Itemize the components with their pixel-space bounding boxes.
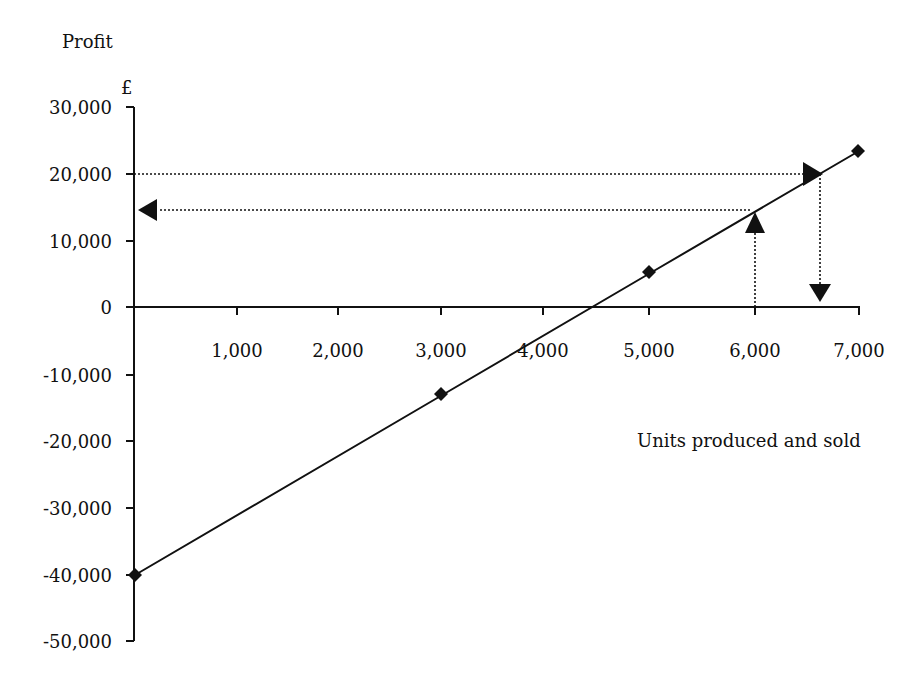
y-tick-label: -50,000 xyxy=(43,631,112,652)
x-tick-label: 2,000 xyxy=(312,340,364,361)
y-tick-labels: 30,000 20,000 10,000 0 -10,000 -20,000 -… xyxy=(43,97,112,652)
y-tick-label: 10,000 xyxy=(49,231,112,252)
x-tick-label: 5,000 xyxy=(623,340,675,361)
profit-line xyxy=(135,151,859,575)
x-axis-title: Units produced and sold xyxy=(637,430,861,451)
y-axis-unit: £ xyxy=(121,77,132,98)
y-tick-label: 30,000 xyxy=(49,97,112,118)
y-tick-label: 20,000 xyxy=(49,164,112,185)
y-axis xyxy=(126,107,134,641)
y-tick-label: -40,000 xyxy=(43,565,112,586)
arrow-left-icon xyxy=(138,199,157,221)
y-tick-label: -20,000 xyxy=(43,431,112,452)
x-tick-label: 4,000 xyxy=(517,340,569,361)
profit-volume-chart: Profit £ Units produced and sold 30,000 … xyxy=(0,0,920,679)
x-tick-label: 3,000 xyxy=(415,340,467,361)
diamond-marker xyxy=(851,144,865,158)
y-tick-label: -10,000 xyxy=(43,365,112,386)
y-tick-label: -30,000 xyxy=(43,498,112,519)
arrow-down-icon xyxy=(809,284,831,302)
x-tick-label: 6,000 xyxy=(729,340,781,361)
diamond-marker xyxy=(128,568,142,582)
arrowheads xyxy=(138,162,831,302)
x-tick-label: 1,000 xyxy=(211,340,263,361)
guide-lines xyxy=(134,174,820,307)
x-axis xyxy=(126,307,860,315)
x-tick-labels: 1,000 2,000 3,000 4,000 5,000 6,000 7,00… xyxy=(211,340,885,361)
y-tick-label: 0 xyxy=(101,297,112,318)
y-axis-title: Profit xyxy=(62,31,114,52)
x-tick-label: 7,000 xyxy=(833,340,885,361)
